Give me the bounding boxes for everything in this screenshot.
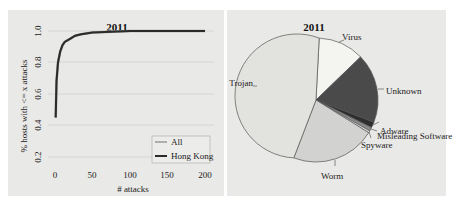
- label-unknown: Unknown: [386, 86, 422, 96]
- x-tick: 150: [160, 170, 174, 180]
- x-tick: 100: [123, 170, 137, 180]
- x-tick: 50: [88, 170, 98, 180]
- cdf-chart-panel: 2011 0.2 0.4 0.6 0.8 1.0 % hosts with <=…: [8, 10, 224, 196]
- pie-chart: 2011 Virus: [227, 10, 446, 196]
- y-tick: 0.6: [33, 88, 43, 100]
- series-hong-kong-line: [56, 31, 205, 118]
- x-tick: 200: [198, 170, 212, 180]
- legend: All Hong Kong: [152, 136, 214, 163]
- y-tick: 0.8: [33, 56, 43, 68]
- y-tick: 1.0: [33, 25, 43, 37]
- label-worm: Worm: [321, 171, 343, 181]
- label-trojan: Trojan: [229, 78, 253, 88]
- cdf-chart: 2011 0.2 0.4 0.6 0.8 1.0 % hosts with <=…: [8, 10, 224, 196]
- x-axis-label: # attacks: [117, 184, 149, 194]
- label-virus: Virus: [342, 32, 362, 42]
- pie-chart-panel: 2011 Virus: [227, 10, 446, 196]
- x-tick: 0: [53, 170, 58, 180]
- y-tick: 0.4: [33, 119, 43, 131]
- pie-chart-title: 2011: [303, 21, 324, 33]
- legend-hong-kong-label: Hong Kong: [171, 151, 214, 161]
- x-axis-ticks: 0 50 100 150 200: [53, 170, 213, 180]
- y-tick: 0.2: [33, 151, 43, 162]
- pie: [235, 34, 378, 162]
- y-axis-label: % hosts with <= x attacks: [19, 59, 29, 152]
- series-all-line: [56, 31, 205, 118]
- legend-all-label: All: [171, 137, 183, 147]
- label-spyware: Spyware: [361, 140, 393, 150]
- y-axis-ticks: 0.2 0.4 0.6 0.8 1.0: [33, 25, 43, 163]
